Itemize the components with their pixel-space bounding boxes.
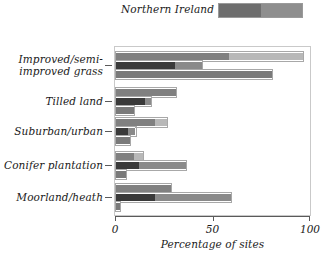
- y-label-tilled-land: Tilled land: [45, 95, 103, 107]
- x-tick: [115, 216, 116, 221]
- bar-group: [115, 183, 310, 210]
- x-tick-label: 50: [206, 223, 219, 235]
- x-axis-title: Percentage of sites: [115, 238, 310, 250]
- plot-area: [115, 47, 310, 215]
- bar-group: [115, 151, 310, 178]
- bar: [115, 105, 135, 116]
- x-tick: [213, 216, 214, 221]
- y-tick-3: [105, 165, 112, 166]
- bar-segment: [116, 170, 126, 179]
- y-tick-0: [105, 65, 112, 66]
- y-label-suburban-urban: Suburban/urban: [14, 125, 103, 137]
- bar-segment: [116, 70, 272, 79]
- chart-legend: Northern Ireland: [0, 2, 335, 20]
- bar: [115, 201, 121, 212]
- y-label-moorland-heath: Moorland/heath: [16, 191, 103, 203]
- x-tick: [309, 216, 310, 221]
- bar-segment: [116, 202, 120, 211]
- y-tick-4: [105, 197, 112, 198]
- bar-segment: [116, 106, 134, 115]
- bar: [115, 69, 273, 80]
- y-tick-1: [105, 101, 112, 102]
- bar-segment: [116, 193, 155, 202]
- bar-segment: [155, 193, 231, 202]
- legend-swatch-medium: [261, 4, 303, 17]
- x-tick-label: 100: [300, 223, 320, 235]
- x-tick-label: 0: [112, 223, 119, 235]
- bar: [115, 192, 232, 203]
- bar-segment: [139, 161, 186, 170]
- legend-label-northern-ireland: Northern Ireland: [121, 3, 214, 15]
- y-axis-labels: Improved/semi- improved grass Tilled lan…: [0, 46, 112, 216]
- bar-segment: [155, 118, 167, 127]
- bar-segment: [145, 97, 151, 106]
- legend-swatch-dark: [219, 4, 261, 17]
- chart-figure: Northern Ireland Improved/semi- improved…: [0, 0, 335, 267]
- bar-segment: [229, 52, 303, 61]
- y-label-improved-semi-improved-grass: Improved/semi- improved grass: [19, 53, 103, 77]
- bar-group: [115, 87, 310, 114]
- bar-segment: [116, 136, 130, 145]
- legend-swatch-group: [218, 3, 303, 18]
- bar: [115, 169, 127, 180]
- bar-group: [115, 51, 310, 78]
- y-label-conifer-plantation: Conifer plantation: [4, 159, 103, 171]
- bar-group: [115, 117, 310, 144]
- y-tick-2: [105, 131, 112, 132]
- bar: [115, 135, 131, 146]
- x-axis: 050100: [115, 216, 310, 217]
